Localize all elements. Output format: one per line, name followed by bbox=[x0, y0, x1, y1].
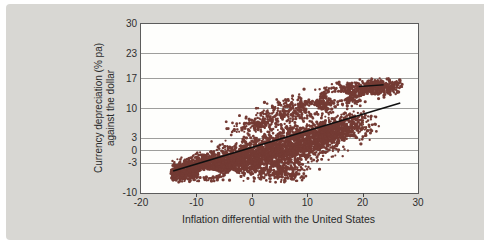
x-tick-mark-10 bbox=[307, 193, 308, 197]
x-tick-mark-20 bbox=[363, 193, 364, 197]
plot-area: 3023171030-3-10-20-100102030 bbox=[140, 23, 419, 194]
x-tick-label--10: -10 bbox=[179, 198, 213, 208]
x-tick-mark--10 bbox=[196, 193, 197, 197]
y-axis-title: Currency depreciation (% pa) against the… bbox=[93, 43, 117, 173]
x-tick-label-20: 20 bbox=[346, 198, 380, 208]
y-tick-label--10: -10 bbox=[103, 188, 137, 198]
y-axis-title-line1: Currency depreciation (% pa) bbox=[93, 43, 105, 173]
figure-stage: 3023171030-3-10-20-100102030 Inflation d… bbox=[0, 0, 484, 247]
scatter-canvas bbox=[141, 24, 418, 193]
y-tick-label-30: 30 bbox=[103, 19, 137, 29]
x-tick-label-30: 30 bbox=[401, 198, 435, 208]
x-tick-label-10: 10 bbox=[290, 198, 324, 208]
x-tick-mark-0 bbox=[252, 193, 253, 197]
x-axis-title: Inflation differential with the United S… bbox=[140, 213, 417, 225]
x-tick-label-0: 0 bbox=[235, 198, 269, 208]
x-tick-label--20: -20 bbox=[124, 198, 158, 208]
y-axis-title-line2: against the dollar bbox=[105, 43, 117, 173]
